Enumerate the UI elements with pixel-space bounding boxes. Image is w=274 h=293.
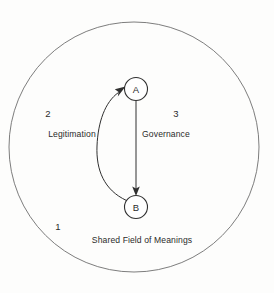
node-a-label: A — [133, 84, 140, 95]
legitimation-arrow-head-icon — [115, 87, 126, 97]
shared-field-of-meanings-figure: A B 2 Legitimation 3 Governance 1 Shared… — [0, 0, 274, 293]
diagram-canvas: A B 2 Legitimation 3 Governance 1 Shared… — [0, 0, 274, 293]
zone-3-number: 3 — [173, 108, 178, 119]
legitimation-arrow-curve — [97, 93, 127, 201]
zone-3-caption-governance: Governance — [142, 129, 190, 139]
zone-1-caption-shared-field-of-meanings: Shared Field of Meanings — [92, 235, 192, 245]
zone-2-number: 2 — [45, 108, 50, 119]
zone-2-caption-legitimation: Legitimation — [48, 129, 96, 139]
node-b-label: B — [133, 202, 139, 213]
zone-1-number: 1 — [55, 221, 60, 232]
